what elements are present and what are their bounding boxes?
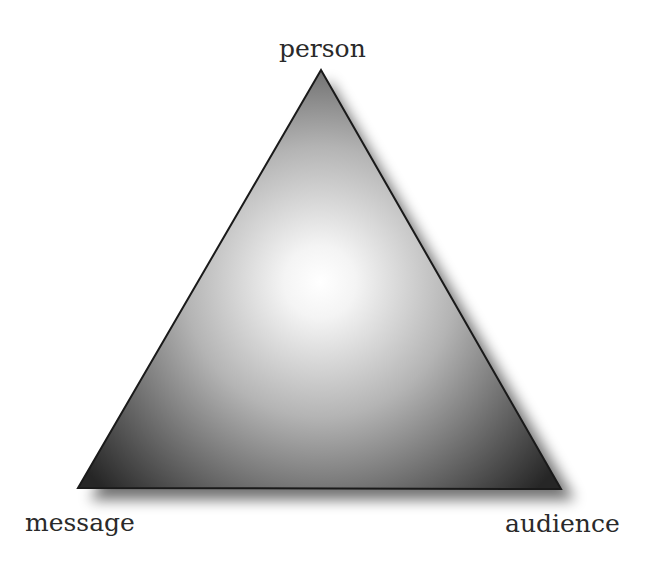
vertex-label-person: person (279, 36, 366, 61)
vertex-label-audience: audience (505, 511, 620, 536)
vertex-label-message: message (25, 510, 135, 535)
triangle-diagram: person message audience (0, 0, 655, 567)
triangle-body (78, 70, 561, 489)
triangle-graphic (0, 0, 655, 567)
